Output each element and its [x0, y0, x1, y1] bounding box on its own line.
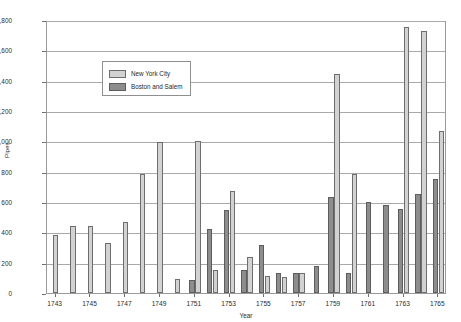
legend-swatch-new-york-city — [109, 70, 126, 78]
bar-boston-and-salem-1753 — [224, 210, 229, 293]
x-axis-tick-label: 1765 — [430, 300, 445, 307]
x-axis-tick-label: 1759 — [326, 300, 341, 307]
bar-new-york-city-1745 — [88, 226, 93, 293]
bar-boston-and-salem-1752 — [207, 229, 212, 293]
bar-new-york-city-1759 — [334, 74, 339, 293]
bar-boston-and-salem-1755 — [259, 245, 264, 293]
x-axis-tick-label: 1747 — [117, 300, 132, 307]
legend-label-new-york-city: New York City — [131, 70, 170, 77]
bar-boston-and-salem-1762 — [383, 205, 388, 293]
gridline — [47, 21, 445, 22]
bar-boston-and-salem-1763 — [398, 209, 403, 293]
bar-new-york-city-1746 — [105, 243, 110, 293]
x-axis-tick-label: 1751 — [186, 300, 201, 307]
x-axis-tick-mark — [437, 294, 438, 297]
legend-swatch-boston-and-salem — [109, 83, 126, 91]
x-axis-tick-mark — [263, 294, 264, 297]
bar-new-york-city-1757 — [299, 273, 304, 293]
bar-boston-and-salem-1757 — [293, 273, 298, 293]
x-axis-tick-label: 1743 — [47, 300, 62, 307]
x-axis-tick-mark — [89, 294, 90, 297]
bar-new-york-city-1755 — [265, 276, 270, 293]
bar-new-york-city-1765 — [439, 131, 444, 293]
bar-new-york-city-1764 — [421, 31, 426, 293]
bar-boston-and-salem-1765 — [433, 179, 438, 293]
bar-new-york-city-1749 — [157, 142, 162, 293]
legend-label-boston-and-salem: Boston and Salem — [131, 83, 182, 90]
x-axis-tick-mark — [194, 294, 195, 297]
x-axis-tick-label: 1755 — [256, 300, 271, 307]
x-axis-tick-mark — [229, 294, 230, 297]
x-axis-tick-mark — [298, 294, 299, 297]
bar-chart: Pipes 02004006008001,0001,2001,4001,6001… — [0, 0, 461, 322]
x-axis-tick-mark — [333, 294, 334, 297]
gridline — [47, 142, 445, 143]
gridline — [47, 112, 445, 113]
bar-boston-and-salem-1754 — [241, 270, 246, 294]
bar-new-york-city-1763 — [404, 27, 409, 293]
x-axis-tick-mark — [159, 294, 160, 297]
bar-new-york-city-1743 — [53, 235, 58, 293]
gridline — [47, 51, 445, 52]
bar-boston-and-salem-1761 — [366, 202, 371, 293]
bar-boston-and-salem-1759 — [328, 197, 333, 293]
bar-new-york-city-1756 — [282, 277, 287, 293]
x-axis-tick-label: 1753 — [221, 300, 236, 307]
x-axis-tick-label: 1749 — [152, 300, 167, 307]
bar-boston-and-salem-1760 — [346, 273, 351, 293]
bar-new-york-city-1754 — [247, 257, 252, 293]
x-axis-tick-label: 1745 — [82, 300, 97, 307]
legend-item-new-york-city: New York City — [109, 67, 190, 80]
bar-boston-and-salem-1751 — [189, 280, 194, 293]
x-axis-tick-mark — [368, 294, 369, 297]
gridline — [47, 203, 445, 204]
bar-new-york-city-1744 — [70, 226, 75, 293]
bar-boston-and-salem-1764 — [415, 194, 420, 293]
gridline — [47, 173, 445, 174]
bar-boston-and-salem-1758 — [314, 266, 319, 293]
bar-new-york-city-1753 — [230, 191, 235, 293]
bar-new-york-city-1752 — [213, 270, 218, 293]
legend-item-boston-and-salem: Boston and Salem — [109, 80, 190, 93]
bar-new-york-city-1750 — [175, 279, 180, 293]
x-axis-tick-mark — [55, 294, 56, 297]
x-axis-tick-mark — [124, 294, 125, 297]
bar-boston-and-salem-1756 — [276, 273, 281, 293]
bar-new-york-city-1747 — [123, 222, 128, 293]
x-axis-tick-mark — [403, 294, 404, 297]
x-axis-tick-label: 1763 — [395, 300, 410, 307]
chart-legend: New York City Boston and Salem — [102, 61, 191, 96]
plot-area: New York City Boston and Salem — [46, 21, 446, 294]
bar-new-york-city-1760 — [352, 174, 357, 293]
x-axis-label: Year — [46, 312, 446, 319]
bar-new-york-city-1748 — [140, 174, 145, 293]
bar-new-york-city-1751 — [195, 141, 200, 293]
x-axis-tick-label: 1761 — [360, 300, 375, 307]
x-axis-tick-label: 1757 — [291, 300, 306, 307]
